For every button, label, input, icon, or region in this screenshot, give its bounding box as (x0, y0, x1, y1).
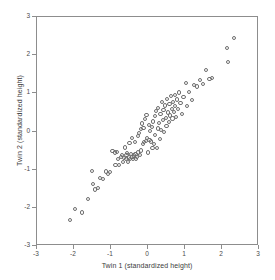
data-point (162, 130, 166, 134)
y-axis-label: Twin 2 (standardized height) (16, 61, 23, 181)
data-point (167, 120, 171, 124)
y-tick-label: -3 (14, 241, 30, 249)
data-point (73, 207, 77, 211)
data-point (90, 169, 94, 173)
data-point (172, 110, 176, 114)
y-tick-mark (32, 245, 36, 246)
data-point (115, 150, 119, 154)
data-point (201, 82, 205, 86)
data-point (157, 121, 161, 125)
data-point (190, 98, 194, 102)
data-point (143, 117, 147, 121)
data-point (117, 163, 121, 167)
x-tick-mark (73, 245, 74, 249)
y-tick-mark (32, 16, 36, 17)
data-point (164, 124, 168, 128)
x-tick-label: -1 (100, 250, 120, 258)
scatter-plot-figure: -3-2-10123-3-2-10123 Twin 1 (standardize… (0, 0, 275, 280)
data-point (185, 104, 189, 108)
data-point (138, 153, 142, 157)
x-axis-label: Twin 1 (standardized height) (36, 262, 258, 269)
data-point (96, 186, 100, 190)
y-tick-label: -2 (14, 203, 30, 211)
data-point (151, 119, 155, 123)
data-point (174, 115, 178, 119)
data-point (158, 137, 162, 141)
data-point (152, 142, 156, 146)
data-point (178, 101, 182, 105)
data-point (144, 113, 148, 117)
y-tick-label: 3 (14, 12, 30, 20)
x-tick-label: 0 (137, 250, 157, 258)
data-point (91, 182, 95, 186)
x-tick-label: -3 (26, 250, 46, 258)
data-point (155, 146, 159, 150)
x-tick-mark (184, 245, 185, 249)
y-tick-mark (32, 54, 36, 55)
data-point (150, 146, 154, 150)
data-point (140, 121, 144, 125)
data-point (139, 148, 143, 152)
y-tick-label: 2 (14, 50, 30, 58)
data-point (148, 129, 152, 133)
data-point (133, 140, 137, 144)
y-tick-mark (32, 92, 36, 93)
data-point (150, 125, 154, 129)
data-point (156, 106, 160, 110)
data-point (146, 150, 150, 154)
data-point (184, 81, 188, 85)
x-tick-mark (110, 245, 111, 249)
data-point (68, 218, 72, 222)
data-point (225, 46, 229, 50)
data-point (176, 107, 180, 111)
data-point (204, 68, 208, 72)
x-tick-label: -2 (63, 250, 83, 258)
x-tick-mark (147, 245, 148, 249)
data-point (141, 126, 145, 130)
y-tick-mark (32, 131, 36, 132)
data-point (226, 60, 230, 64)
x-tick-label: 3 (248, 250, 268, 258)
x-tick-mark (36, 245, 37, 249)
data-point (195, 84, 199, 88)
data-point (137, 131, 141, 135)
data-point (108, 170, 112, 174)
data-point (86, 197, 90, 201)
data-point (210, 76, 214, 80)
y-tick-mark (32, 207, 36, 208)
data-point (158, 112, 162, 116)
x-tick-label: 2 (211, 250, 231, 258)
data-point (161, 108, 165, 112)
data-point (153, 114, 157, 118)
x-tick-label: 1 (174, 250, 194, 258)
data-point (177, 90, 181, 94)
plot-frame (36, 16, 258, 245)
x-tick-mark (258, 245, 259, 249)
y-tick-mark (32, 169, 36, 170)
data-points-layer (37, 17, 257, 244)
x-tick-mark (221, 245, 222, 249)
data-point (127, 141, 131, 145)
data-point (123, 145, 127, 149)
data-point (187, 90, 191, 94)
data-point (181, 95, 185, 99)
data-point (101, 177, 105, 181)
data-point (153, 133, 157, 137)
data-point (80, 210, 84, 214)
data-point (180, 112, 184, 116)
data-point (232, 36, 236, 40)
